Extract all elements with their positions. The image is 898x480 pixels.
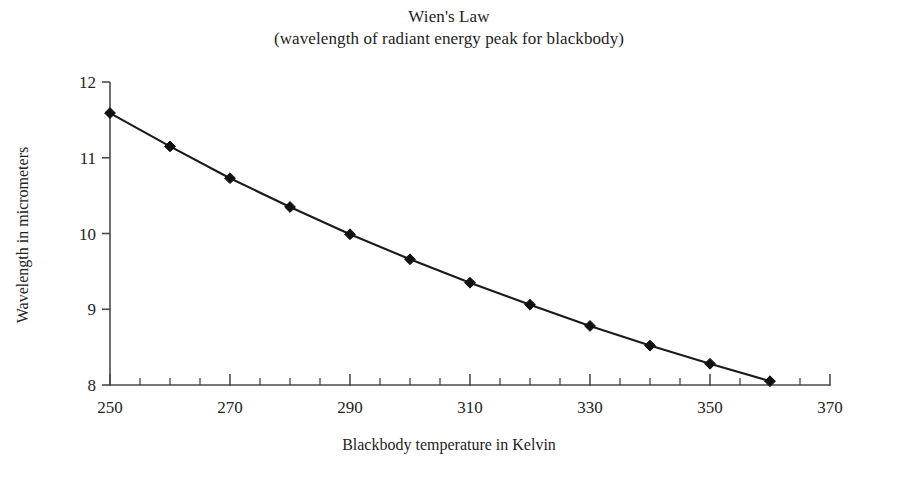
y-tick-label: 9 bbox=[88, 300, 97, 319]
data-point-marker bbox=[165, 141, 176, 152]
y-tick-label: 12 bbox=[79, 73, 96, 92]
x-tick-label: 250 bbox=[97, 398, 123, 417]
x-tick-label: 350 bbox=[697, 398, 723, 417]
x-tick-label: 330 bbox=[577, 398, 603, 417]
data-point-marker bbox=[645, 340, 656, 351]
data-line-group bbox=[110, 113, 770, 381]
data-point-marker bbox=[585, 321, 596, 332]
data-point-marker bbox=[705, 358, 716, 369]
x-tick-group: 250270290310330350370 bbox=[97, 374, 843, 417]
x-tick-label: 270 bbox=[217, 398, 243, 417]
data-point-marker bbox=[225, 173, 236, 184]
x-tick-label: 290 bbox=[337, 398, 363, 417]
data-point-marker bbox=[345, 229, 356, 240]
data-point-marker bbox=[105, 108, 116, 119]
data-point-marker bbox=[405, 254, 416, 265]
data-point-marker bbox=[525, 299, 536, 310]
data-point-group bbox=[105, 108, 776, 387]
x-tick-label: 370 bbox=[817, 398, 843, 417]
y-tick-label: 10 bbox=[79, 225, 96, 244]
y-tick-label: 8 bbox=[88, 376, 97, 395]
plot-area: 89101112 250270290310330350370 bbox=[0, 0, 898, 480]
chart-figure: Wien's Law (wavelength of radiant energy… bbox=[0, 0, 898, 480]
x-tick-label: 310 bbox=[457, 398, 483, 417]
axes-group bbox=[110, 82, 830, 385]
y-tick-group: 89101112 bbox=[79, 73, 110, 395]
y-tick-label: 11 bbox=[80, 149, 96, 168]
data-line bbox=[110, 113, 770, 381]
data-point-marker bbox=[285, 202, 296, 213]
data-point-marker bbox=[465, 277, 476, 288]
